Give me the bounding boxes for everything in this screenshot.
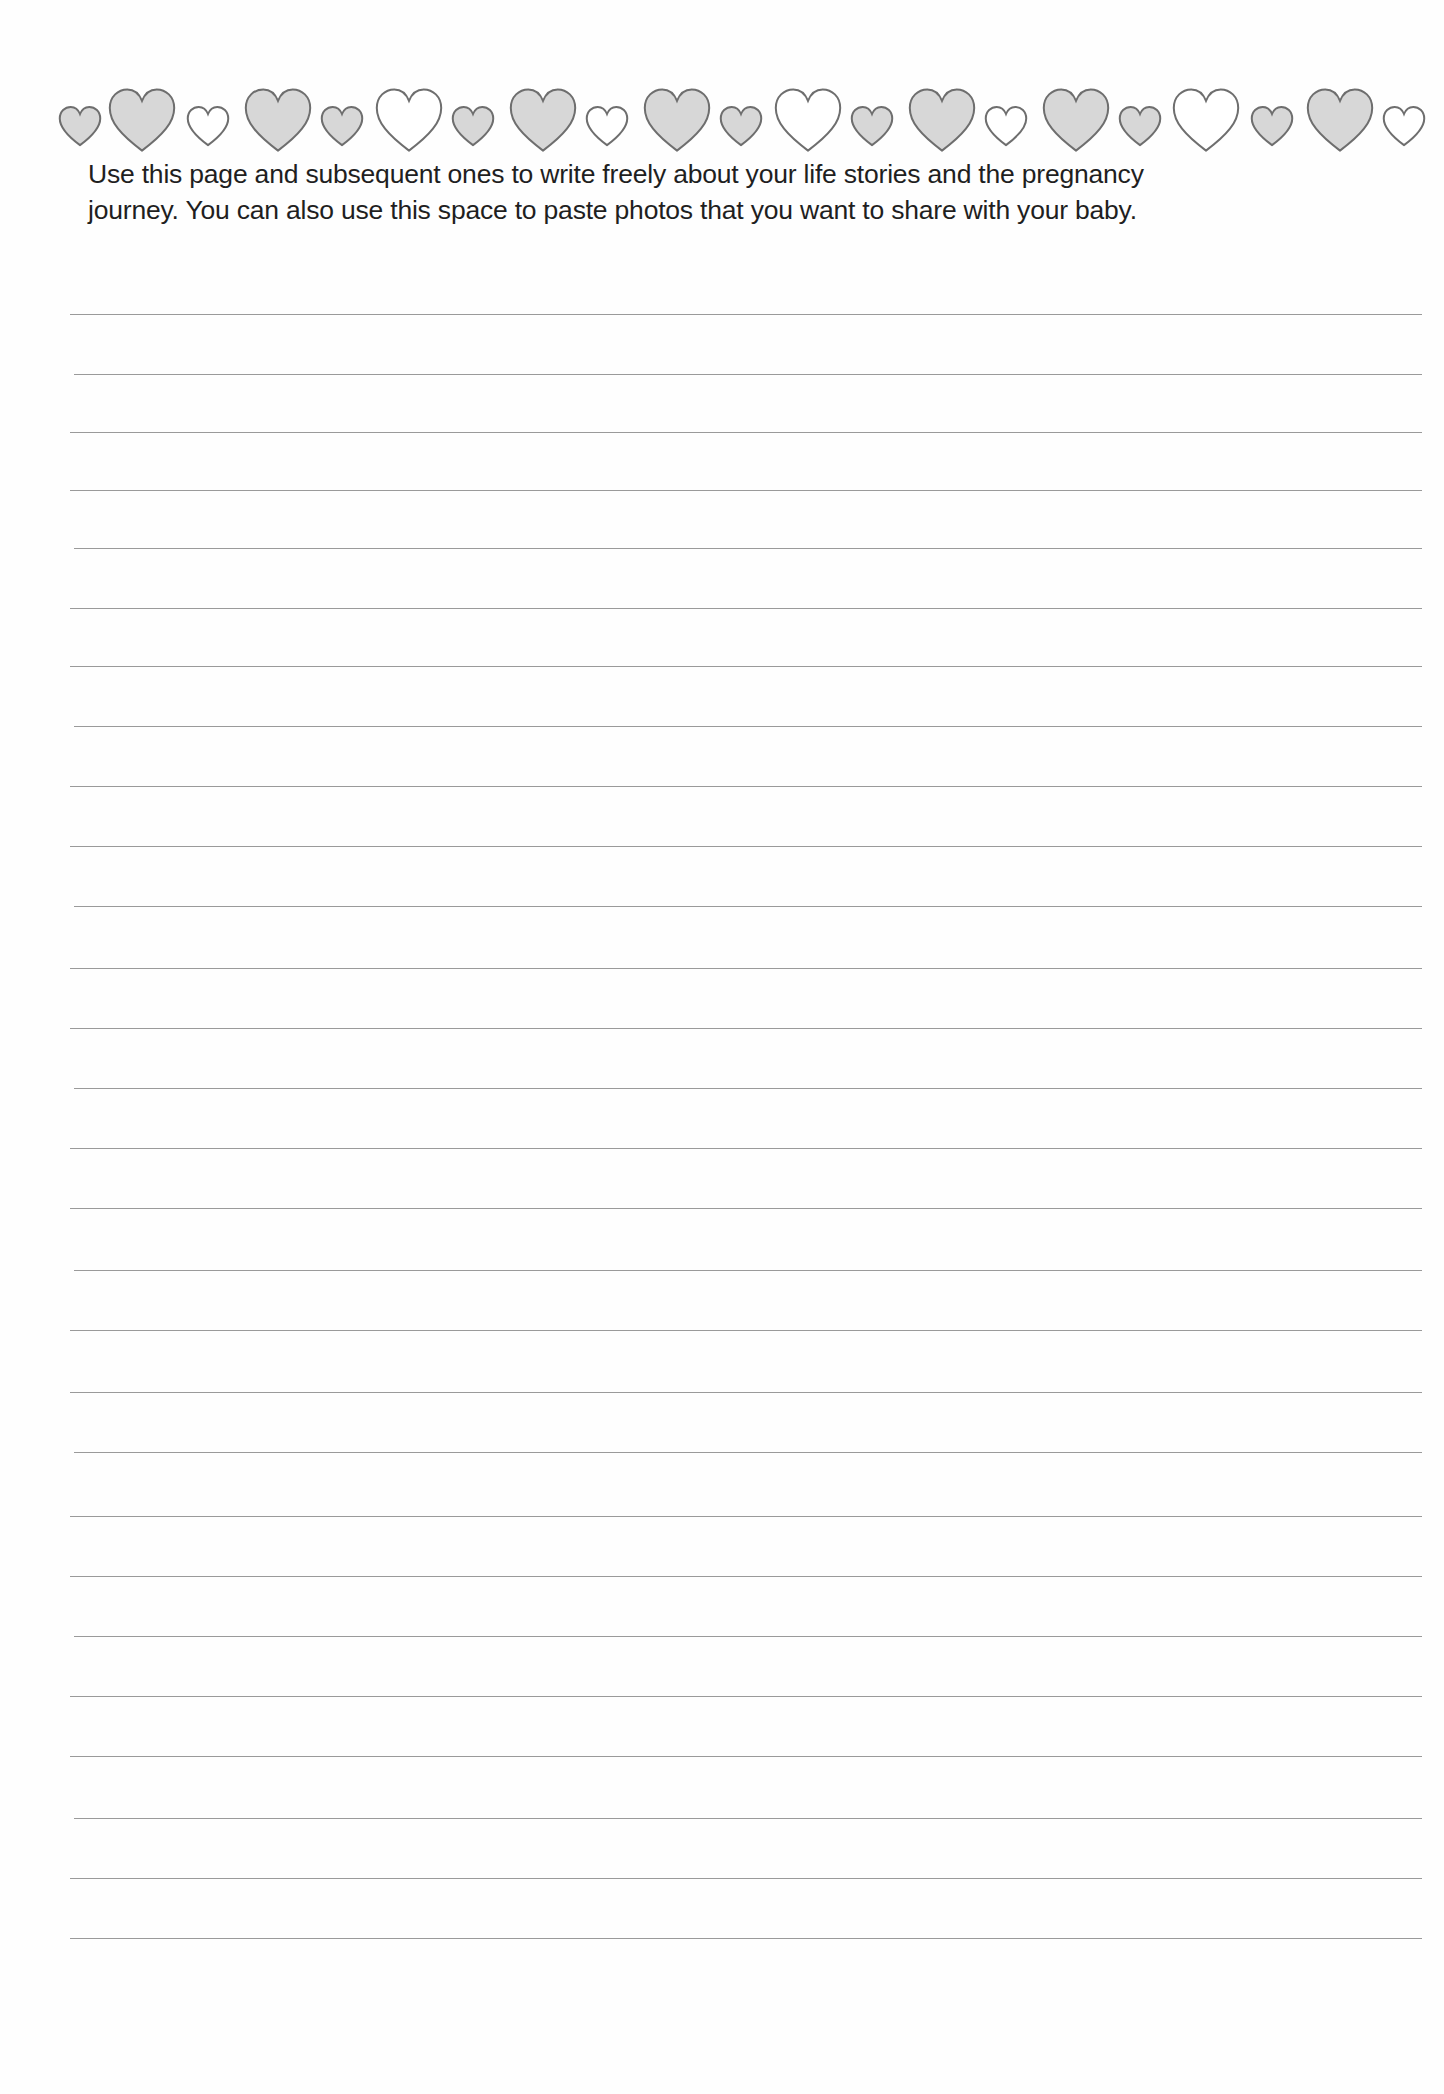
writing-line xyxy=(70,1938,1422,1939)
writing-line xyxy=(70,490,1422,491)
writing-area[interactable] xyxy=(0,0,1444,2094)
writing-line xyxy=(70,1516,1422,1517)
writing-line xyxy=(74,726,1422,727)
writing-line xyxy=(70,1878,1422,1879)
writing-line xyxy=(70,786,1422,787)
writing-line xyxy=(74,548,1422,549)
writing-line xyxy=(70,1696,1422,1697)
writing-line xyxy=(74,1636,1422,1637)
writing-line xyxy=(74,906,1422,907)
writing-line xyxy=(74,1270,1422,1271)
writing-line xyxy=(74,1088,1422,1089)
writing-line xyxy=(70,666,1422,667)
journal-page: Use this page and subsequent ones to wri… xyxy=(0,0,1444,2094)
writing-line xyxy=(70,432,1422,433)
writing-line xyxy=(70,314,1422,315)
writing-line xyxy=(70,1028,1422,1029)
writing-line xyxy=(70,1148,1422,1149)
writing-line xyxy=(70,1330,1422,1331)
writing-line xyxy=(70,1392,1422,1393)
writing-line xyxy=(74,1452,1422,1453)
writing-line xyxy=(74,1818,1422,1819)
writing-line xyxy=(70,1756,1422,1757)
writing-line xyxy=(70,846,1422,847)
writing-line xyxy=(70,1576,1422,1577)
writing-line xyxy=(70,1208,1422,1209)
writing-line xyxy=(70,968,1422,969)
writing-line xyxy=(70,608,1422,609)
writing-line xyxy=(74,374,1422,375)
